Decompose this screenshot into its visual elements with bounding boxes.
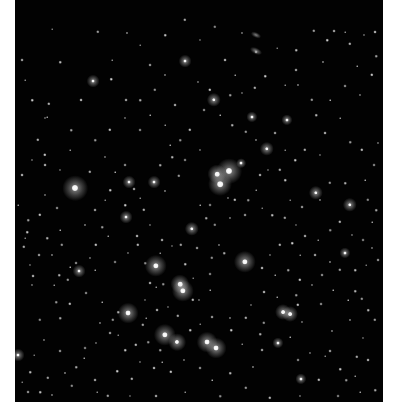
faint-star [283, 216, 286, 219]
faint-star [198, 299, 200, 301]
bright-star [126, 311, 131, 316]
faint-star [213, 223, 216, 226]
faint-star [324, 355, 326, 357]
faint-star [365, 264, 367, 266]
faint-star [367, 359, 370, 362]
faint-star [332, 289, 334, 291]
faint-star [199, 149, 201, 151]
faint-star [366, 198, 369, 201]
faint-star [199, 204, 201, 206]
faint-star [274, 274, 276, 276]
faint-star [344, 182, 347, 185]
faint-star [56, 207, 59, 210]
faint-star [375, 55, 378, 58]
faint-star [329, 350, 332, 353]
faint-star [317, 239, 319, 241]
bright-star [217, 181, 223, 187]
faint-star [231, 124, 234, 127]
faint-star [262, 321, 265, 324]
faint-star [108, 128, 111, 131]
faint-star [96, 30, 99, 33]
faint-star [244, 130, 247, 133]
faint-star [371, 247, 373, 249]
faint-star [359, 391, 361, 393]
faint-star [164, 74, 166, 76]
faint-star [304, 235, 307, 238]
faint-star [301, 321, 303, 323]
faint-star [153, 367, 156, 370]
faint-star [43, 153, 46, 156]
faint-star [58, 274, 61, 277]
faint-star [127, 252, 129, 254]
faint-star [51, 254, 53, 256]
faint-star [197, 81, 199, 83]
faint-star [139, 361, 141, 363]
faint-star [367, 309, 370, 312]
faint-star [311, 284, 313, 286]
faint-star [43, 339, 45, 341]
faint-star [364, 179, 366, 181]
faint-star [229, 217, 231, 219]
faint-star [125, 99, 128, 102]
faint-star [209, 204, 212, 207]
faint-star [94, 209, 97, 212]
faint-star [159, 252, 161, 254]
faint-star [321, 274, 324, 277]
faint-star [110, 78, 113, 81]
faint-star [80, 99, 83, 102]
faint-star [354, 269, 357, 272]
faint-star [284, 149, 286, 151]
faint-star [191, 298, 194, 301]
faint-star [250, 304, 252, 306]
faint-star [159, 349, 162, 352]
faint-star [84, 224, 86, 226]
faint-star [218, 244, 220, 246]
faint-star [329, 99, 331, 101]
faint-star [338, 220, 341, 223]
faint-star [296, 303, 299, 306]
faint-star [303, 148, 306, 151]
faint-star [329, 229, 332, 232]
faint-star [149, 224, 151, 226]
faint-star [109, 189, 112, 192]
faint-star [359, 94, 361, 96]
faint-star [101, 226, 104, 229]
faint-star [347, 299, 349, 301]
faint-star [94, 379, 97, 382]
faint-star [17, 204, 19, 206]
faint-star [99, 322, 101, 324]
faint-star [284, 84, 286, 86]
faint-star [297, 84, 299, 86]
faint-star [59, 350, 62, 353]
faint-star [84, 347, 87, 350]
faint-star [117, 334, 119, 336]
faint-star [291, 242, 294, 245]
faint-star [188, 128, 191, 131]
bright-star [300, 378, 303, 381]
faint-star [183, 359, 185, 361]
faint-star [162, 283, 165, 286]
faint-star [169, 144, 171, 146]
faint-star [263, 291, 266, 294]
faint-star [354, 375, 356, 377]
faint-star [208, 88, 211, 91]
faint-star [31, 99, 34, 102]
faint-star [59, 169, 61, 171]
faint-star [223, 252, 226, 255]
faint-star [333, 30, 336, 33]
faint-star [126, 32, 128, 34]
faint-star [298, 278, 301, 281]
faint-star [111, 59, 113, 61]
faint-star [94, 269, 96, 271]
faint-star [27, 391, 30, 394]
faint-star [252, 366, 254, 368]
faint-star [46, 237, 49, 240]
faint-star [177, 174, 180, 177]
bright-star [344, 252, 347, 255]
faint-star [230, 329, 233, 332]
faint-star [213, 25, 216, 28]
faint-star [156, 309, 159, 312]
faint-star [261, 349, 264, 352]
faint-star [210, 256, 213, 259]
faint-star [70, 384, 73, 387]
